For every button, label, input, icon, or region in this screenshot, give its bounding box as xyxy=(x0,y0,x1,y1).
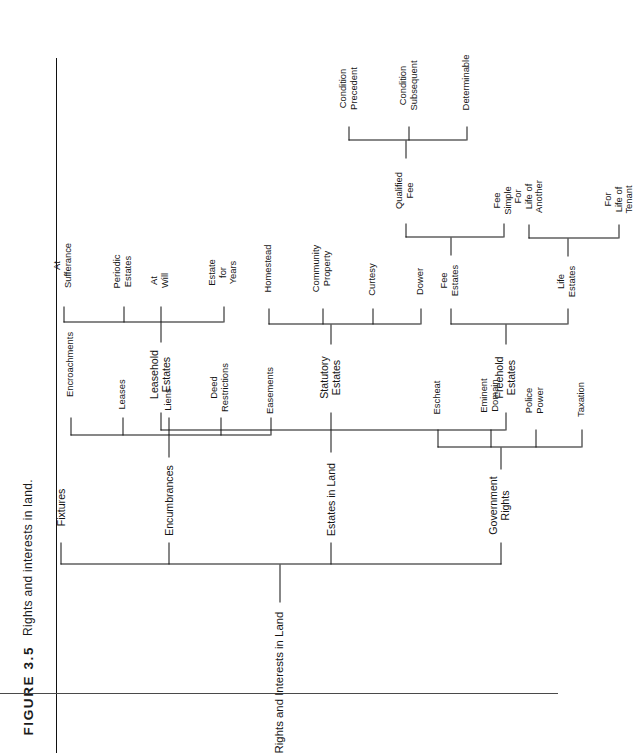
edge-to-fee-simple xyxy=(504,224,505,238)
edge-government-rights-stem xyxy=(501,448,502,470)
edge-qualified-fee-stem xyxy=(406,141,407,159)
node-fee-simple: Fee Simple xyxy=(492,186,513,215)
node-taxation: Taxation xyxy=(576,382,587,417)
edge-to-deed-restrictions xyxy=(221,418,222,436)
edge-to-periodic-estates xyxy=(124,307,125,323)
edge-to-condition-precedent xyxy=(349,127,350,141)
edge-to-leasehold-estates xyxy=(161,413,162,431)
node-fee-estates: Fee Estates xyxy=(439,265,460,296)
edge-qualified-fee-spine xyxy=(349,140,467,141)
edge-to-curtesy xyxy=(373,309,374,325)
node-root: Rights and Interests in Land xyxy=(273,612,286,753)
node-dower: Dower xyxy=(415,268,426,295)
edge-to-police-power xyxy=(536,430,537,448)
node-encroachments: Encroachments xyxy=(65,332,76,397)
edge-statutory-stem xyxy=(331,325,332,345)
edge-estates-in-land-spine xyxy=(161,430,506,431)
edge-encumbrances-stem xyxy=(169,436,170,458)
node-statutory-estates: Statutory Estates xyxy=(318,356,342,398)
edge-to-escheat xyxy=(438,430,439,448)
edge-to-encroachments xyxy=(71,418,72,436)
edge-to-eminent-domain xyxy=(491,430,492,448)
edge-to-encumbrances xyxy=(169,543,170,565)
edge-freehold-spine xyxy=(451,324,568,325)
node-condition-subsequent: Condition Subsequent xyxy=(398,60,419,110)
edge-to-freehold-estates xyxy=(506,413,507,431)
edge-to-statutory-estates xyxy=(331,413,332,431)
edge-fee-estates-spine xyxy=(406,237,504,238)
node-homestead: Homestead xyxy=(263,245,274,293)
edge-to-at-will xyxy=(161,307,162,323)
edge-to-dower xyxy=(421,309,422,325)
node-condition-precedent: Condition Precedent xyxy=(338,67,359,110)
edge-estates-in-land-stem xyxy=(331,431,332,453)
edge-life-estates-stem xyxy=(568,239,569,257)
edge-to-government-rights xyxy=(501,543,502,565)
node-community-property: Community Property xyxy=(311,245,332,292)
node-at-will: At Will xyxy=(149,273,170,288)
node-fixtures: Fixtures xyxy=(55,489,67,527)
edge-to-leases xyxy=(123,418,124,436)
node-estate-for-years: Estate for Years xyxy=(207,259,239,286)
edge-life-estates-spine xyxy=(529,238,619,239)
edge-leasehold-spine xyxy=(64,322,224,323)
node-leasehold-estates: Leasehold Estates xyxy=(148,350,172,399)
edge-encumbrances-spine xyxy=(71,435,271,436)
node-for-life-of-another: For Life of Another xyxy=(513,180,545,213)
edge-leasehold-stem xyxy=(161,323,162,343)
edge-to-determinable xyxy=(467,127,468,141)
edge-fee-estates-stem xyxy=(451,238,452,256)
node-encumbrances: Encumbrances xyxy=(163,465,175,536)
edge-to-for-life-of-tenant xyxy=(619,225,620,239)
node-police-power: Police Power xyxy=(524,387,545,414)
node-periodic-estates: Periodic Estates xyxy=(112,255,133,289)
node-leases: Leases xyxy=(117,379,128,409)
node-curtesy: Curtesy xyxy=(367,263,378,295)
edge-level1-spine xyxy=(61,564,502,565)
edge-root-stem xyxy=(280,565,281,603)
edge-to-estate-for-years xyxy=(224,307,225,323)
edge-to-condition-subsequent xyxy=(409,127,410,141)
edge-statutory-spine xyxy=(269,324,421,325)
node-at-sufferance: At Sufferance xyxy=(52,243,73,288)
edge-to-easements xyxy=(271,418,272,436)
node-life-estates: Life Estates xyxy=(556,266,577,297)
edge-government-rights-spine xyxy=(438,447,582,448)
edge-to-at-sufferance xyxy=(64,307,65,323)
node-escheat: Escheat xyxy=(432,381,443,415)
edge-to-qualified-fee xyxy=(406,224,407,238)
node-easements: Easements xyxy=(265,367,276,414)
node-deed-restrictions: Deed Restrictions xyxy=(209,363,230,412)
node-estates-in-land: Estates in Land xyxy=(325,463,337,536)
edge-to-taxation xyxy=(582,430,583,448)
edge-to-for-life-of-another xyxy=(529,225,530,239)
node-determinable: Determinable xyxy=(461,55,472,111)
edge-to-life-estates xyxy=(568,309,569,325)
edge-to-estates-in-land xyxy=(331,543,332,565)
node-qualified-fee: Qualified Fee xyxy=(394,172,415,209)
edge-to-fixtures xyxy=(61,543,62,565)
node-for-life-of-tenant: For Life of Tenant xyxy=(603,185,634,213)
edge-to-fee-estates xyxy=(451,309,452,325)
edge-freehold-stem xyxy=(506,325,507,345)
node-government-rights: Government Rights xyxy=(487,476,511,534)
edge-to-community-property xyxy=(323,309,324,325)
edge-to-liens xyxy=(169,418,170,436)
tree-diagram: Rights and Interests in Land Fixtures En… xyxy=(1,0,559,753)
edge-to-homestead xyxy=(269,309,270,325)
node-freehold-estates: Freehold Estates xyxy=(493,357,517,399)
